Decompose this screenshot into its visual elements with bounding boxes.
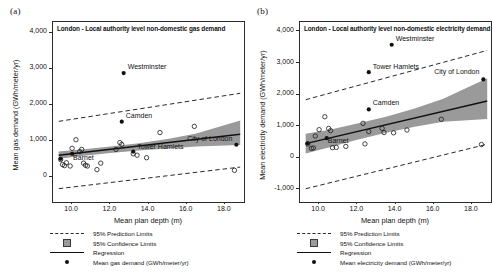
panel-a-plot-area: London - Local authority level non-domes… [52, 21, 245, 203]
panel-a-tag: (a) [10, 6, 21, 16]
x-tick-label: 18.0 [456, 205, 486, 212]
x-tick-label: 10.0 [303, 205, 333, 212]
legend-key [44, 260, 90, 264]
point-label: Tower Hamlets [137, 143, 184, 150]
legend-label: Regression [90, 249, 124, 256]
point-label: Camden [373, 99, 400, 106]
y-tick-label: 3,000 [276, 58, 294, 65]
panel-a-data-layer: WestminsterCamdenTower HamletsCity of Lo… [53, 22, 244, 202]
shaded-square-icon [310, 239, 318, 247]
y-tick-label: 3,000 [29, 63, 47, 70]
filled-dot-icon [65, 260, 69, 264]
legend-item: Mean electricity demand (GWh/meter/yr) [291, 258, 491, 268]
shaded-square-icon [63, 239, 71, 247]
figure-two-panel-scatter: (a) Mean gas demand (GWh/meter/yr) Mean … [0, 0, 493, 277]
x-tick-label: 18.0 [209, 205, 239, 212]
panel-b-y-axis-label: Mean electricity demand (GWh/meter/yr) [258, 40, 269, 190]
legend-item: 95% Prediction Limits [291, 229, 491, 239]
legend-key [44, 252, 90, 253]
y-tick-label: 2,000 [276, 89, 294, 96]
legend-key [291, 233, 337, 234]
legend-key [291, 252, 337, 253]
legend-item: Mean gas demand (GWh/meter/yr) [44, 258, 244, 268]
x-tick-label: 12.0 [341, 205, 371, 212]
x-tick-label: 16.0 [418, 205, 448, 212]
point-label: Tower Hamlets [373, 63, 420, 70]
legend-item: 95% Confidence Limits [44, 239, 244, 249]
x-tick-label: 14.0 [380, 205, 410, 212]
x-tick-label: 12.0 [94, 205, 124, 212]
legend-item: 95% Prediction Limits [44, 229, 244, 239]
legend-item: Regression [44, 248, 244, 258]
legend-key [44, 233, 90, 234]
dashed-line-icon [50, 233, 84, 234]
legend-key [291, 260, 337, 264]
point-label: City of London [187, 135, 232, 143]
y-tick-label: 4,000 [276, 26, 294, 33]
solid-line-icon [50, 252, 84, 253]
y-tick-label: 2,000 [29, 99, 47, 106]
legend-label: Mean electricity demand (GWh/meter/yr) [337, 259, 451, 266]
y-tick-label: -1,000 [274, 184, 294, 191]
panel-a-legend: 95% Prediction Limits95% Confidence Limi… [44, 229, 244, 267]
panel-a-y-axis-label: Mean gas demand (GWh/meter/yr) [11, 40, 22, 190]
legend-label: 95% Prediction Limits [90, 230, 153, 237]
legend-label: 95% Confidence Limits [337, 240, 403, 247]
y-tick-label: 1,000 [29, 135, 47, 142]
y-tick-label: 0 [290, 152, 294, 159]
panel-b-data-layer: WestminsterTower HamletsCity of LondonCa… [300, 22, 491, 202]
x-tick-label: 10.0 [56, 205, 86, 212]
solid-line-icon [297, 252, 331, 253]
point-label: Barnet [73, 154, 94, 161]
panel-b: (b) Mean electricity demand (GWh/meter/y… [247, 0, 493, 277]
y-tick-label: 0 [43, 171, 47, 178]
panel-a-x-axis-label: Mean plan depth (m) [52, 216, 244, 225]
point-label: Westminster [128, 63, 167, 70]
panel-b-plot-area: London - Local authority level non-domes… [299, 21, 492, 203]
y-tick-label: 1,000 [276, 121, 294, 128]
x-tick-label: 16.0 [171, 205, 201, 212]
legend-key [44, 239, 90, 247]
point-label: City of London [434, 68, 479, 76]
point-label: Westminster [396, 35, 435, 42]
point-label: Camden [126, 112, 153, 119]
panel-b-x-axis-label: Mean plan depth (m) [299, 216, 491, 225]
legend-item: 95% Confidence Limits [291, 239, 491, 249]
panel-b-legend: 95% Prediction Limits95% Confidence Limi… [291, 229, 491, 267]
legend-key [291, 239, 337, 247]
filled-dot-icon [312, 260, 316, 264]
y-tick-label: 4,000 [29, 27, 47, 34]
legend-label: 95% Confidence Limits [90, 240, 156, 247]
panel-b-tag: (b) [257, 6, 268, 16]
legend-label: Mean gas demand (GWh/meter/yr) [90, 259, 189, 266]
point-label: Barnet [328, 137, 349, 144]
legend-label: Regression [337, 249, 371, 256]
x-tick-label: 14.0 [133, 205, 163, 212]
panel-a: (a) Mean gas demand (GWh/meter/yr) Mean … [0, 0, 246, 277]
legend-item: Regression [291, 248, 491, 258]
legend-label: 95% Prediction Limits [337, 230, 400, 237]
dashed-line-icon [297, 233, 331, 234]
